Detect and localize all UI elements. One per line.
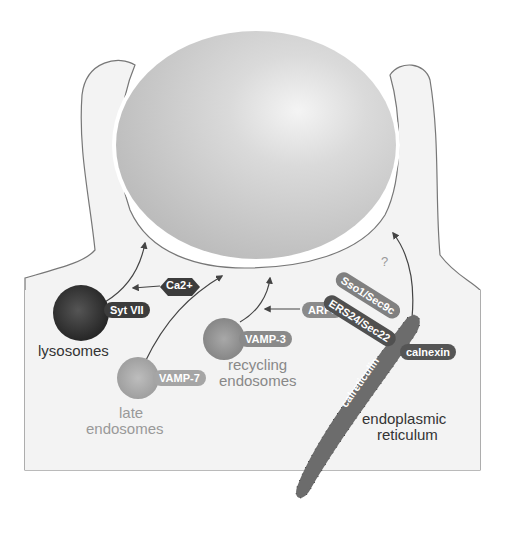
recycling-endosomes-label: endosomes [219,372,297,389]
diagram-canvas [0,0,508,541]
syt7-label: Syt VII [104,302,150,318]
calnexin-label: calnexin [400,344,456,360]
lysosome [53,285,109,341]
vamp7-label: VAMP-7 [153,370,206,386]
er-label-1: endoplasmic [362,410,446,427]
er-label-2: reticulum [377,426,438,443]
ca-label: Ca2+ [166,279,193,291]
question-mark: ? [381,254,388,269]
vamp3-label: VAMP-3 [239,331,292,347]
lysosomes-label: lysosomes [38,342,109,359]
late-label: late [119,404,143,421]
recycling-label: recycling [228,356,287,373]
late-endosomes-label: endosomes [86,420,164,437]
